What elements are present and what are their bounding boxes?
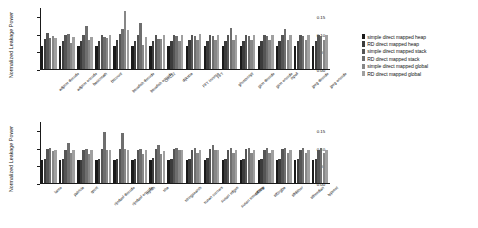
bar-group [95, 122, 113, 183]
bar [235, 35, 237, 69]
x-tick-label: dijkstra [181, 71, 193, 83]
bar-group [312, 122, 330, 183]
bar-group [131, 8, 149, 69]
bar-group [59, 122, 77, 183]
bar-group [186, 8, 204, 69]
bar-group [131, 122, 149, 183]
legend-label: simple direct mapped stack [367, 48, 426, 54]
x-tick-label: typeset [326, 185, 339, 197]
bar [90, 37, 92, 69]
x-tick-label: ghostscript [237, 71, 254, 87]
bar [217, 150, 219, 183]
bar [127, 150, 129, 183]
bar-group [41, 8, 59, 69]
x-tick-label: stringsearch [184, 185, 203, 203]
legend-item: simple direct mapped stack [362, 48, 476, 55]
bar-group [222, 8, 240, 69]
bar [109, 35, 111, 69]
bar-group [41, 122, 59, 183]
bar [145, 150, 147, 183]
legend-item: simple direct mapped global [362, 63, 476, 70]
bar-group [95, 8, 113, 69]
bar-group [167, 8, 185, 69]
bar [90, 150, 92, 183]
x-tick-label: tiffmedian [309, 185, 325, 200]
x-tick-label: jpeg encode [329, 71, 348, 89]
y-tick-mark [37, 17, 40, 18]
legend-swatch-icon [362, 71, 365, 76]
bar [72, 150, 74, 183]
x-tick-label: sha [162, 185, 170, 193]
legend-swatch-icon [362, 49, 365, 54]
bar-group [149, 8, 167, 69]
x-tick-label: tiffdither [290, 185, 304, 198]
bar [54, 150, 56, 183]
y-tick-mark [37, 52, 40, 53]
legend-item: RD direct mapped global [362, 70, 476, 77]
x-axis-labels-top: adpcm decodeadpcm encodebasicmathbitcoun… [40, 70, 330, 110]
legend-swatch-icon [362, 64, 365, 69]
bar-group [240, 8, 258, 69]
legend-item: RD direct mapped stack [362, 55, 476, 62]
bar-group [240, 122, 258, 183]
legend-swatch-icon [362, 41, 365, 46]
bar [307, 35, 309, 69]
legend-swatch-icon [362, 56, 365, 61]
x-tick-label: CRC32 [163, 71, 176, 83]
legend-swatch-icon [362, 34, 365, 39]
bar-group [149, 122, 167, 183]
bar-group [276, 8, 294, 69]
bar [181, 35, 183, 69]
bar [145, 37, 147, 69]
legend-item: simple direct mapped heap [362, 33, 476, 40]
y-tick-mark [37, 149, 40, 150]
x-axis-labels-bottom: lamepatriciaqsortrijndael decoderijndael… [40, 184, 330, 224]
bar-group [204, 122, 222, 183]
plot-area-bottom: 0.000.050.100.15 [40, 122, 330, 184]
x-tick-label: bitcount [109, 71, 122, 84]
bar [325, 35, 327, 69]
y-tick-mark [37, 166, 40, 167]
x-tick-label: lame [53, 185, 63, 194]
bar-group [77, 122, 95, 183]
legend-label: RD direct mapped stack [367, 56, 419, 62]
bar [127, 30, 129, 69]
bar [253, 35, 255, 69]
bar-group [113, 122, 131, 183]
figure: Normalized Leakage Power 0.000.050.100.1… [0, 0, 478, 228]
bar [253, 150, 255, 183]
legend-item: RD direct mapped heap [362, 40, 476, 47]
bar [289, 35, 291, 69]
bar-group [113, 8, 131, 69]
bar [163, 151, 165, 183]
bar-group [294, 8, 312, 69]
legend: simple direct mapped heapRD direct mappe… [362, 33, 476, 77]
bar [72, 37, 74, 69]
y-axis-label-top: Normalized Leakage Power [8, 10, 22, 80]
legend-label: simple direct mapped global [367, 63, 428, 69]
x-tick-label: tiff2bw [253, 185, 265, 196]
bar-group [204, 8, 222, 69]
bar-group [222, 122, 240, 183]
x-tick-label: qsort [90, 185, 100, 195]
plot-area-top: 0.000.050.100.15 [40, 8, 330, 70]
bar [307, 150, 309, 183]
bar [235, 150, 237, 183]
bar-group [258, 8, 276, 69]
legend-label: RD direct mapped global [367, 71, 421, 77]
bar [217, 35, 219, 69]
y-tick-mark [37, 131, 40, 132]
bar-group [276, 122, 294, 183]
bar-group [167, 122, 185, 183]
bar [289, 150, 291, 183]
bar [54, 38, 56, 69]
bar-group [77, 8, 95, 69]
legend-label: RD direct mapped heap [367, 41, 419, 47]
x-tick-label: rsynth [145, 185, 156, 196]
bar [271, 35, 273, 69]
bar [199, 150, 201, 183]
legend-label: simple direct mapped heap [367, 34, 426, 40]
bar-group [294, 122, 312, 183]
bar [181, 150, 183, 183]
x-tick-label: gsm decode [256, 71, 275, 89]
